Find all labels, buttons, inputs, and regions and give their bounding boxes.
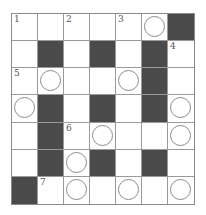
grid-cell[interactable] [142,14,168,41]
grid-cell[interactable] [12,123,38,150]
grid-cell[interactable] [168,68,194,95]
clue-number: 4 [170,41,176,51]
black-cell [12,177,38,204]
black-cell [38,95,64,122]
circle-marker-icon [40,70,61,91]
circle-marker-icon [170,125,191,146]
black-cell [142,95,168,122]
black-cell [90,150,116,177]
black-cell [38,41,64,68]
grid-cell[interactable] [116,68,142,95]
grid-cell[interactable] [38,14,64,41]
grid-cell[interactable] [90,14,116,41]
clue-number: 7 [40,177,46,187]
grid-cell[interactable]: 3 [116,14,142,41]
grid-cell[interactable]: 5 [12,68,38,95]
black-cell [142,68,168,95]
circle-marker-icon [14,97,35,118]
circle-marker-icon [118,179,139,200]
grid-cell[interactable] [116,41,142,68]
clue-number: 1 [14,14,20,24]
circle-marker-icon [144,16,165,37]
circle-marker-icon [118,70,139,91]
grid-cell[interactable] [116,177,142,204]
grid-cell[interactable] [142,177,168,204]
clue-number: 3 [118,14,124,24]
grid-cell[interactable] [168,177,194,204]
clue-number: 5 [14,68,20,78]
grid-cell[interactable] [12,150,38,177]
clue-number: 2 [66,14,72,24]
grid-cell[interactable]: 2 [64,14,90,41]
grid-cell[interactable] [64,68,90,95]
black-cell [38,150,64,177]
grid-cell[interactable] [12,95,38,122]
grid-cell[interactable]: 4 [168,41,194,68]
grid-cell[interactable] [90,177,116,204]
grid-cell[interactable] [12,41,38,68]
grid-cell[interactable]: 1 [12,14,38,41]
grid-cell[interactable] [116,123,142,150]
grid-cell[interactable] [38,68,64,95]
grid-cell[interactable]: 6 [64,123,90,150]
grid-cell[interactable] [116,95,142,122]
grid-cell[interactable] [168,150,194,177]
black-cell [90,95,116,122]
circle-marker-icon [170,179,191,200]
grid-cell[interactable] [168,95,194,122]
black-cell [38,123,64,150]
circle-marker-icon [170,97,191,118]
grid-cell[interactable] [90,123,116,150]
clue-number: 6 [66,123,72,133]
grid-cell[interactable] [64,177,90,204]
grid-cell[interactable] [116,150,142,177]
black-cell [142,150,168,177]
circle-marker-icon [66,179,87,200]
grid-cell[interactable] [64,150,90,177]
circle-marker-icon [92,125,113,146]
grid-cell[interactable] [64,95,90,122]
grid-cell[interactable]: 7 [38,177,64,204]
black-cell [142,41,168,68]
grid-cell[interactable] [64,41,90,68]
black-cell [168,14,194,41]
grid-cell[interactable] [90,68,116,95]
crossword-grid: 1234567 [11,13,195,205]
grid-cell[interactable] [142,123,168,150]
circle-marker-icon [66,152,87,173]
black-cell [90,41,116,68]
grid-cell[interactable] [168,123,194,150]
